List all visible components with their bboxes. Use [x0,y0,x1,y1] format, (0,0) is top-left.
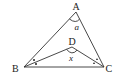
label-d: D [69,36,76,47]
triangle-mark-icon [93,62,95,64]
label-a: A [73,1,81,12]
label-b: B [12,63,19,74]
angle-label-a: a [75,22,80,32]
triangle-abc [24,12,104,67]
triangle-mark-icon [96,58,98,60]
dot-mark-icon [33,59,35,61]
label-c: C [106,63,113,74]
dot-mark-icon [35,63,37,65]
triangle-diagram: A B C D a x [0,0,113,76]
angle-label-x: x [68,53,73,63]
segment-bd [24,47,72,67]
